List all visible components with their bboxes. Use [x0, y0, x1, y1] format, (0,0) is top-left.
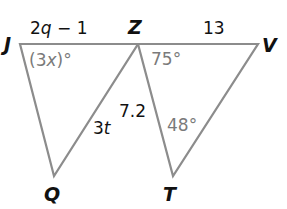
angle-label-j: (3x)°	[29, 50, 72, 70]
side-label-zt: 7.2	[119, 101, 146, 121]
side-label-zv: 13	[203, 18, 225, 38]
vertex-label-q: Q	[44, 183, 60, 205]
diagram-canvas: J Z V Q T 2q − 1 13 7.2 3t (3x)° 75° 48°	[0, 0, 287, 209]
angle-label-t: 48°	[167, 115, 197, 135]
vertex-label-v: V	[262, 34, 278, 56]
angle-label-z: 75°	[151, 49, 181, 69]
side-label-zq: 3t	[93, 118, 112, 138]
vertex-label-j: J	[0, 33, 11, 55]
vertex-label-t: T	[163, 183, 178, 205]
side-label-jz: 2q − 1	[30, 18, 88, 38]
vertex-label-z: Z	[127, 16, 143, 38]
